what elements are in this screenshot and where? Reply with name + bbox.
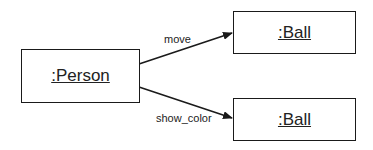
move-message-label: move bbox=[164, 33, 191, 45]
ball-object-1: :Ball bbox=[233, 11, 356, 54]
person-object: :Person bbox=[21, 49, 140, 103]
ball-label-2: :Ball bbox=[278, 110, 311, 130]
person-label: :Person bbox=[51, 66, 110, 86]
ball-object-2: :Ball bbox=[233, 98, 356, 141]
ball-label-1: :Ball bbox=[278, 23, 311, 43]
show-color-message-label: show_color bbox=[156, 112, 212, 124]
